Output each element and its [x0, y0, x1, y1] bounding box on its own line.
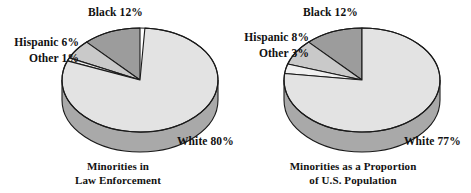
slice-label-other: Other 1%	[0, 52, 79, 65]
chart-us-population: Black 12% Hispanic 8% Other 3% White 77%…	[235, 0, 471, 193]
slice-label-hispanic: Hispanic 6%	[0, 36, 79, 49]
chart-law-enforcement: Black 12% Hispanic 6% Other 1% White 80%…	[0, 0, 236, 193]
slice-label-black: Black 12%	[88, 6, 143, 19]
slice-label-white: White 80%	[177, 135, 234, 148]
slice-label-other: Other 3%	[235, 47, 309, 60]
chart-caption-us-population: Minorities as a Proportion of U.S. Popul…	[235, 160, 471, 187]
pie-chart-figure: Black 12% Hispanic 6% Other 1% White 80%…	[0, 0, 471, 193]
caption-line-2: of U.S. Population	[235, 174, 471, 188]
chart-caption-law-enforcement: Minorities in Law Enforcement	[0, 160, 236, 187]
caption-line-1: Minorities as a Proportion	[235, 160, 471, 174]
caption-line-1: Minorities in	[0, 160, 236, 174]
caption-line-2: Law Enforcement	[0, 174, 236, 188]
slice-label-hispanic: Hispanic 8%	[235, 31, 309, 44]
slice-label-black: Black 12%	[303, 6, 358, 19]
slice-label-white: White 77%	[404, 135, 461, 148]
